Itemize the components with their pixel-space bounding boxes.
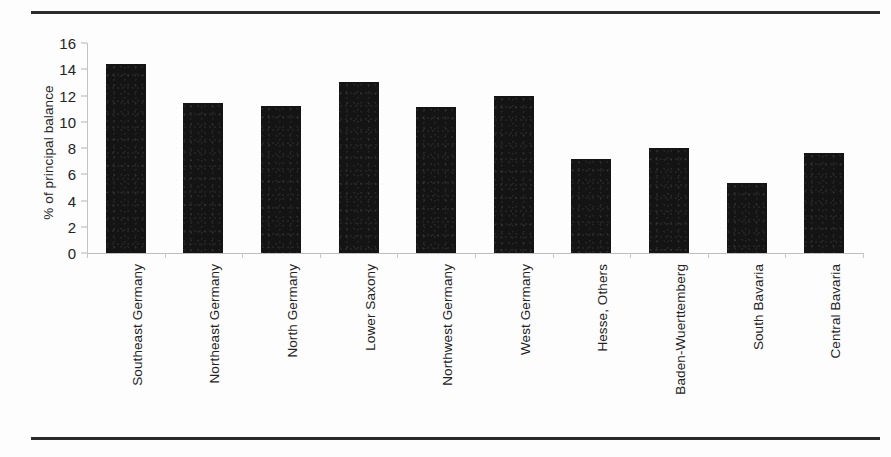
- x-axis-category-label: South Bavaria: [752, 264, 766, 434]
- y-axis-tick-label: 4: [48, 193, 76, 208]
- x-axis-separator: [863, 253, 864, 258]
- x-axis-separator: [165, 253, 166, 258]
- x-axis-separator: [785, 253, 786, 258]
- chart-figure: % of principal balance 0246810121416 Sou…: [0, 0, 891, 457]
- bar: [183, 103, 223, 253]
- y-axis-tick-label: 10: [48, 114, 76, 129]
- bar: [339, 82, 379, 253]
- y-axis-tick-labels: 0246810121416: [48, 0, 76, 457]
- x-axis-category-label: North Germany: [286, 264, 300, 434]
- y-axis-line: [87, 43, 88, 254]
- bar: [727, 183, 767, 253]
- x-axis-separator: [708, 253, 709, 258]
- x-axis-separator: [242, 253, 243, 258]
- x-axis-category-label: West Germany: [519, 264, 533, 434]
- x-axis-separator: [475, 253, 476, 258]
- x-axis-separator: [397, 253, 398, 258]
- bar: [494, 96, 534, 254]
- x-axis-separator: [630, 253, 631, 258]
- bar: [804, 153, 844, 253]
- y-axis-tick-label: 6: [48, 167, 76, 182]
- y-axis-tick-label: 12: [48, 88, 76, 103]
- x-axis-category-label: Baden-Wuerttemberg: [674, 264, 688, 434]
- y-axis-tick-label: 0: [48, 246, 76, 261]
- bar: [106, 64, 146, 253]
- y-axis-tick-label: 16: [48, 36, 76, 51]
- x-axis-category-label: Northwest Germany: [441, 264, 455, 434]
- x-axis-separator: [320, 253, 321, 258]
- x-axis-category-label: Lower Saxony: [364, 264, 378, 434]
- bar: [261, 106, 301, 253]
- y-axis-tick-label: 2: [48, 219, 76, 234]
- y-axis-tick-label: 14: [48, 62, 76, 77]
- x-axis-separator: [553, 253, 554, 258]
- x-axis-category-label: Southeast Germany: [131, 264, 145, 434]
- bar: [649, 148, 689, 253]
- bar: [571, 159, 611, 254]
- plot-area: % of principal balance 0246810121416 Sou…: [0, 0, 891, 457]
- x-axis-category-label: Northeast Germany: [208, 264, 222, 434]
- bar: [416, 107, 456, 253]
- y-axis-tick-label: 8: [48, 141, 76, 156]
- x-axis-separator: [87, 253, 88, 258]
- x-axis-category-label: Hesse, Others: [596, 264, 610, 434]
- x-axis-category-label: Central Bavaria: [829, 264, 843, 434]
